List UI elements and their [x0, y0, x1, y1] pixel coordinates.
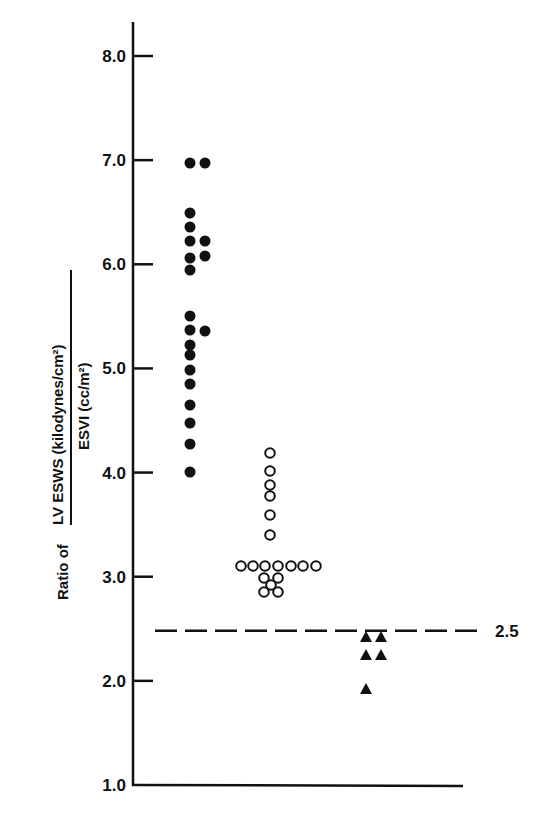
open-circle-marker [265, 466, 275, 476]
filled-circle-marker [185, 325, 196, 336]
filled-circle-marker [185, 340, 196, 351]
filled-circle-marker [200, 236, 211, 247]
filled-circle-marker [185, 379, 196, 390]
filled-circle-marker [185, 222, 196, 233]
open-circle-marker [248, 561, 258, 571]
data-points [185, 158, 388, 695]
open-circle-marker [298, 561, 308, 571]
filled-circle-marker [185, 158, 196, 169]
axes [132, 22, 463, 786]
y-label-denominator: ESVI (cc/m²) [75, 362, 92, 450]
open-circle-marker [265, 448, 275, 458]
open-circle-marker [273, 561, 283, 571]
filled-circle-marker [185, 350, 196, 361]
open-circle-marker [273, 587, 283, 597]
filled-circle-marker [185, 418, 196, 429]
open-circle-marker [265, 530, 275, 540]
filled-triangle-marker [360, 683, 372, 694]
y-axis-label: Ratio of LV ESWS (kilodynes/cm²) ESVI (c… [49, 270, 92, 600]
y-tick-label: 8.0 [102, 47, 126, 66]
open-circle-marker [265, 491, 275, 501]
reference-line: 2.5 [155, 622, 519, 641]
filled-circle-marker [200, 158, 211, 169]
open-circle-marker [260, 561, 270, 571]
filled-circle-marker [200, 326, 211, 337]
filled-triangle-marker [360, 649, 372, 660]
y-ticks: 1.02.03.04.05.06.07.08.0 [102, 47, 153, 795]
open-circle-marker [311, 561, 321, 571]
y-tick-label: 1.0 [102, 776, 126, 795]
x-axis-line [132, 785, 463, 786]
y-tick-label: 5.0 [102, 359, 126, 378]
open-circle-marker [259, 587, 269, 597]
reference-line-label: 2.5 [495, 622, 519, 641]
filled-circle-marker [185, 265, 196, 276]
filled-circle-marker [185, 208, 196, 219]
y-tick-label: 2.0 [102, 672, 126, 691]
y-label-prefix: Ratio of [54, 543, 71, 600]
filled-circle-marker [185, 311, 196, 322]
open-circle-marker [236, 561, 246, 571]
filled-circle-marker [185, 236, 196, 247]
y-tick-label: 7.0 [102, 151, 126, 170]
open-circle-marker [286, 561, 296, 571]
y-label-numerator: LV ESWS (kilodynes/cm²) [49, 344, 66, 525]
filled-circle-marker [185, 253, 196, 264]
y-tick-label: 6.0 [102, 255, 126, 274]
y-tick-label: 4.0 [102, 464, 126, 483]
filled-circle-marker [185, 439, 196, 450]
open-circle-marker [265, 480, 275, 490]
open-circle-marker [265, 510, 275, 520]
y-tick-label: 3.0 [102, 568, 126, 587]
scatter-chart: 1.02.03.04.05.06.07.08.0 2.5 Ratio of LV… [0, 0, 556, 828]
filled-circle-marker [200, 251, 211, 262]
filled-triangle-marker [360, 631, 372, 642]
filled-circle-marker [185, 467, 196, 478]
filled-triangle-marker [375, 649, 387, 660]
filled-circle-marker [185, 400, 196, 411]
filled-triangle-marker [375, 631, 387, 642]
filled-circle-marker [185, 365, 196, 376]
